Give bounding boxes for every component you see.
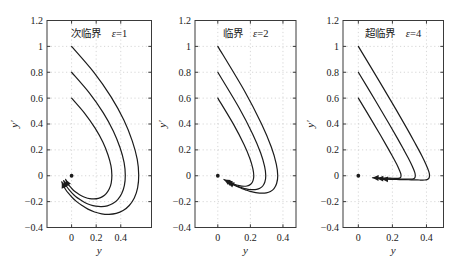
fixed-point-dot bbox=[216, 174, 220, 178]
y-tick-label: −0.4 bbox=[25, 222, 43, 233]
x-tick-label: 0.4 bbox=[115, 232, 128, 243]
epsilon-value: =1 bbox=[116, 28, 127, 39]
trajectory-curve bbox=[358, 98, 401, 178]
y-axis-label: y′ bbox=[304, 120, 316, 129]
y-tick-label: 1 bbox=[186, 41, 191, 52]
panel-title: 次临界 ε=1 bbox=[71, 27, 127, 39]
y-tick-label: 0.8 bbox=[327, 67, 340, 78]
y-axis-label: y′ bbox=[156, 120, 168, 129]
y-tick-label: 0 bbox=[334, 170, 339, 181]
y-tick-label: 0.6 bbox=[31, 93, 44, 104]
y-tick-label: 0.4 bbox=[179, 118, 192, 129]
y-tick-label: 0.8 bbox=[179, 67, 192, 78]
trajectory-curve bbox=[66, 98, 112, 199]
y-tick-label: 0.2 bbox=[179, 144, 192, 155]
phase-portrait-figure: 00.20.41.210.80.60.40.20−0.2−0.4yy′次临界 ε… bbox=[0, 0, 461, 269]
y-tick-label: 0 bbox=[186, 170, 191, 181]
title-text: 临界 bbox=[223, 27, 254, 39]
x-tick-label: 0.4 bbox=[277, 232, 290, 243]
y-tick-label: 1.2 bbox=[327, 15, 340, 26]
x-axis-label: y bbox=[390, 244, 396, 256]
x-tick-label: 0.4 bbox=[420, 232, 433, 243]
y-tick-label: 0.8 bbox=[31, 67, 44, 78]
panel-title: 超临界 ε=4 bbox=[365, 27, 422, 39]
x-tick-label: 0 bbox=[215, 232, 220, 243]
y-tick-label: 1.2 bbox=[31, 15, 44, 26]
trajectory-curve bbox=[218, 98, 254, 186]
y-tick-label: −0.2 bbox=[321, 196, 339, 207]
trajectory-curve bbox=[62, 46, 139, 214]
x-tick-label: 0 bbox=[356, 232, 361, 243]
y-tick-label: −0.4 bbox=[321, 222, 339, 233]
x-tick-label: 0.2 bbox=[90, 232, 103, 243]
trajectory-curve bbox=[218, 72, 266, 189]
figure-canvas: 00.20.41.210.80.60.40.20−0.2−0.4yy′次临界 ε… bbox=[0, 0, 461, 269]
epsilon-value: =2 bbox=[257, 28, 268, 39]
y-tick-label: 1 bbox=[334, 41, 339, 52]
trajectory-arrowhead bbox=[372, 175, 378, 181]
y-tick-label: −0.2 bbox=[173, 196, 191, 207]
title-text: 超临界 bbox=[365, 27, 406, 39]
fixed-point-dot bbox=[356, 174, 360, 178]
trajectory-curve bbox=[64, 72, 126, 206]
fixed-point-dot bbox=[70, 174, 74, 178]
panel-title: 临界 ε=2 bbox=[223, 27, 269, 39]
y-tick-label: 0.6 bbox=[179, 93, 192, 104]
y-tick-label: 0.4 bbox=[31, 118, 44, 129]
x-tick-label: 0.2 bbox=[244, 232, 257, 243]
x-tick-label: 0.2 bbox=[386, 232, 399, 243]
trajectory-curve bbox=[218, 46, 278, 193]
y-axis-label: y′ bbox=[8, 120, 20, 129]
y-tick-label: 0.2 bbox=[31, 144, 44, 155]
y-tick-label: 0.2 bbox=[327, 144, 340, 155]
y-tick-label: 1.2 bbox=[179, 15, 192, 26]
y-tick-label: −0.4 bbox=[173, 222, 191, 233]
y-tick-label: 0.4 bbox=[327, 118, 340, 129]
y-tick-label: 0 bbox=[38, 170, 43, 181]
y-tick-label: 0.6 bbox=[327, 93, 340, 104]
epsilon-value: =4 bbox=[410, 28, 422, 39]
x-axis-label: y bbox=[242, 244, 248, 256]
x-tick-label: 0 bbox=[69, 232, 74, 243]
y-tick-label: −0.2 bbox=[25, 196, 43, 207]
x-axis-label: y bbox=[96, 244, 102, 256]
title-text: 次临界 bbox=[71, 27, 112, 39]
y-tick-label: 1 bbox=[38, 41, 43, 52]
trajectory-curve bbox=[358, 72, 415, 179]
